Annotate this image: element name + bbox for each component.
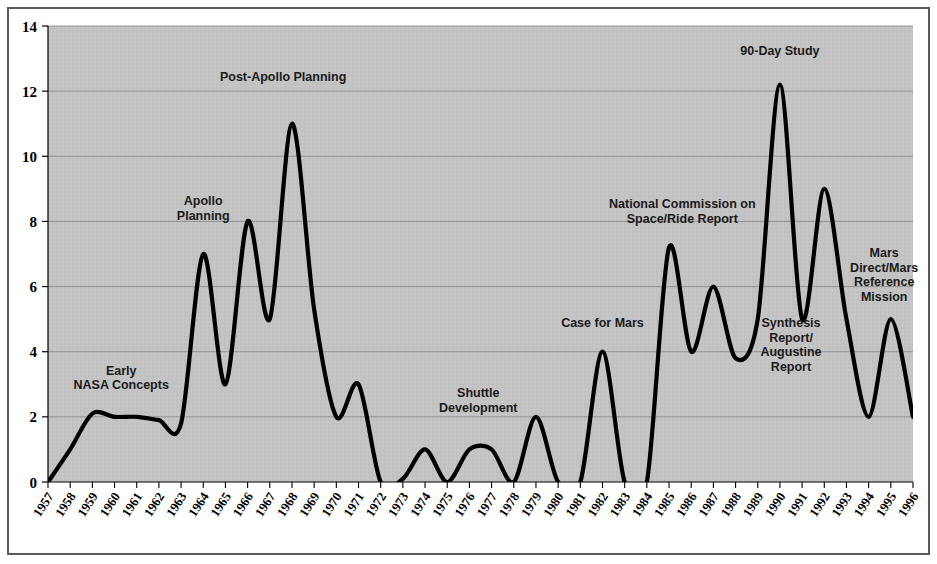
annotation-national-commission-on-space-ride-report: National Commission onSpace/Ride Report (609, 197, 756, 226)
x-tick-label: 1957 (30, 489, 57, 519)
x-tick-label: 1971 (340, 489, 367, 519)
x-tick-label: 1960 (96, 489, 123, 519)
x-tick-label: 1963 (163, 489, 190, 519)
mars-mission-activity-line-chart: 02468101214 1957195819591960196119621963… (0, 0, 937, 564)
x-axis-tick-labels: 1957195819591960196119621963196419651966… (30, 489, 922, 519)
annotation-line: 90-Day Study (740, 44, 819, 58)
x-tick-label: 1979 (518, 489, 545, 519)
x-tick-label: 1991 (784, 489, 811, 519)
x-tick-label: 1972 (362, 489, 389, 519)
x-tick-label: 1982 (584, 489, 611, 519)
annotation-post-apollo-planning: Post-Apollo Planning (220, 70, 346, 84)
annotation-ninety-day-study: 90-Day Study (740, 44, 819, 58)
x-tick-label: 1966 (229, 489, 256, 519)
annotation-line: Post-Apollo Planning (220, 70, 346, 84)
x-tick-label: 1994 (850, 489, 877, 519)
x-tick-label: 1974 (407, 489, 434, 519)
x-tick-label: 1965 (207, 489, 234, 519)
annotation-line: National Commission on (609, 197, 756, 211)
x-tick-label: 1992 (806, 489, 833, 519)
x-tick-label: 1980 (540, 489, 567, 519)
x-tick-label: 1995 (873, 489, 900, 519)
annotation-line: Space/Ride Report (627, 212, 739, 226)
x-tick-label: 1984 (629, 489, 656, 519)
x-tick-label: 1970 (318, 489, 345, 519)
x-tick-label: 1986 (673, 489, 700, 519)
annotation-case-for-mars: Case for Mars (561, 316, 644, 330)
annotation-line: Direct/Mars (850, 261, 918, 275)
y-axis-tick-marks (42, 26, 48, 482)
x-tick-label: 1959 (74, 489, 101, 519)
x-tick-label: 1989 (740, 489, 767, 519)
annotation-apollo-planning: ApolloPlanning (177, 194, 230, 223)
x-tick-label: 1962 (141, 489, 168, 519)
x-tick-label: 1975 (429, 489, 456, 519)
annotation-line: NASA Concepts (73, 378, 168, 392)
x-tick-label: 1969 (296, 489, 323, 519)
y-axis-tick-labels: 02468101214 (22, 19, 38, 491)
x-tick-label: 1981 (562, 489, 589, 519)
x-tick-label: 1993 (828, 489, 855, 519)
annotation-line: Apollo (184, 194, 223, 208)
x-tick-label: 1961 (118, 489, 145, 519)
annotation-line: Early (106, 364, 137, 378)
y-tick-label: 0 (30, 475, 38, 491)
x-tick-label: 1978 (496, 489, 523, 519)
annotation-line: Mars (870, 246, 899, 260)
annotation-line: Shuttle (457, 386, 499, 400)
y-tick-label: 14 (22, 19, 38, 35)
annotation-line: Synthesis (761, 316, 820, 330)
annotation-line: Reference (854, 275, 914, 289)
annotation-line: Report/ (769, 331, 813, 345)
annotation-line: Augustine (760, 345, 821, 359)
x-tick-label: 1990 (762, 489, 789, 519)
x-tick-label: 1985 (651, 489, 678, 519)
annotation-line: Report (771, 360, 812, 374)
annotation-line: Planning (177, 209, 230, 223)
x-tick-label: 1987 (695, 489, 722, 519)
x-tick-label: 1996 (895, 489, 922, 519)
x-tick-label: 1988 (717, 489, 744, 519)
x-tick-label: 1958 (52, 489, 79, 519)
x-tick-label: 1973 (385, 489, 412, 519)
y-tick-label: 4 (30, 344, 38, 360)
annotation-line: Development (439, 401, 518, 415)
x-tick-label: 1977 (473, 489, 500, 519)
y-tick-label: 8 (30, 214, 38, 230)
annotation-line: Mission (861, 290, 908, 304)
y-tick-label: 10 (22, 149, 37, 165)
x-tick-label: 1968 (274, 489, 301, 519)
x-tick-label: 1976 (451, 489, 478, 519)
y-tick-label: 12 (22, 84, 37, 100)
chart-figure: 02468101214 1957195819591960196119621963… (0, 0, 937, 564)
x-axis-tick-marks (48, 482, 913, 488)
x-tick-label: 1964 (185, 489, 212, 519)
y-tick-label: 6 (30, 279, 38, 295)
annotation-line: Case for Mars (561, 316, 644, 330)
y-tick-label: 2 (30, 409, 38, 425)
x-tick-label: 1967 (252, 489, 279, 519)
x-tick-label: 1983 (606, 489, 633, 519)
